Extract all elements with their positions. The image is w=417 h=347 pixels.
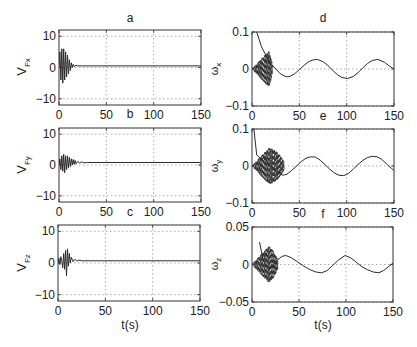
axes-e: 050100150−0.100.1: [225, 122, 404, 220]
x-tick-label: 0: [249, 305, 256, 319]
solid-series-line: [260, 242, 394, 273]
axes-c: 050100150−10010: [35, 224, 211, 318]
panel-e: e ωy 050100150−0.100.1: [208, 109, 404, 220]
solid-series-line: [58, 249, 200, 276]
x-tick-label: 100: [144, 205, 164, 219]
panel-title-a: a: [127, 11, 134, 25]
ylabel-e: ωy: [208, 160, 223, 173]
plot-area: [59, 154, 201, 173]
x-tick-label: 150: [383, 305, 403, 319]
xlabel-f: t(s): [314, 318, 331, 332]
svg-text:ωx: ωx: [208, 63, 223, 76]
y-tick-label: 0: [242, 159, 249, 173]
panel-d: d ωx 050100150−0.100.1: [208, 11, 404, 123]
axes-b: 050100150−10010: [36, 127, 212, 219]
y-tick-label: −0.05: [219, 295, 250, 309]
x-tick-label: 150: [190, 304, 210, 318]
axes-d: 050100150−0.100.1: [225, 25, 404, 123]
xlabel-c: t(s): [121, 318, 138, 332]
x-tick-label: 150: [384, 109, 404, 123]
y-tick-label: 0: [242, 258, 249, 272]
x-tick-label: 50: [100, 205, 114, 219]
y-tick-label: 0: [49, 61, 56, 75]
dashed-series-line: [252, 52, 273, 87]
plot-area: [252, 242, 393, 282]
ylabel-d: ωx: [208, 63, 223, 76]
y-tick-label: −0.1: [225, 99, 249, 113]
panel-b: b VFy 050100150−10010: [14, 107, 211, 219]
x-tick-label: 100: [144, 108, 164, 122]
x-tick-label: 150: [384, 206, 404, 220]
plot-area: [58, 249, 200, 276]
axes-f: 050100150−0.0500.05: [219, 220, 404, 319]
x-tick-label: 0: [56, 205, 63, 219]
axes-a: 050100150−10010: [36, 29, 212, 122]
x-tick-label: 100: [336, 305, 356, 319]
panel-title-f: f: [321, 207, 325, 221]
y-tick-label: 0: [48, 256, 55, 270]
x-tick-label: 0: [249, 109, 256, 123]
solid-series-line: [257, 32, 394, 79]
x-tick-label: 50: [293, 109, 307, 123]
svg-text:ωz: ωz: [208, 258, 223, 271]
plot-area: [252, 32, 394, 87]
y-tick-label: 0: [242, 62, 249, 76]
y-tick-label: 0: [49, 158, 56, 172]
y-tick-label: 10: [43, 127, 57, 141]
x-tick-label: 50: [292, 305, 306, 319]
panel-title-c: c: [127, 205, 133, 219]
plot-area: [59, 49, 201, 83]
ylabel-b: VFy: [14, 156, 32, 174]
ylabel-a: VFx: [14, 58, 32, 76]
x-tick-label: 150: [191, 205, 211, 219]
y-tick-label: −10: [36, 92, 57, 106]
figure: a VFx 050100150−10010 b VFy 050100150−10…: [0, 0, 417, 347]
y-tick-label: −10: [35, 288, 56, 302]
y-tick-label: 10: [42, 224, 56, 238]
x-tick-label: 100: [337, 109, 357, 123]
svg-text:VFx: VFx: [14, 58, 32, 76]
panel-a: a VFx 050100150−10010: [14, 11, 211, 122]
x-tick-label: 100: [337, 206, 357, 220]
panel-title-d: d: [320, 11, 327, 25]
x-tick-label: 0: [56, 108, 63, 122]
solid-series-line: [59, 154, 201, 173]
x-tick-label: 0: [55, 304, 62, 318]
solid-series-line: [59, 49, 201, 83]
x-tick-label: 50: [100, 108, 114, 122]
y-tick-label: 0.1: [232, 25, 249, 39]
x-tick-label: 150: [191, 108, 211, 122]
y-tick-label: 0.05: [226, 220, 250, 234]
x-tick-label: 50: [99, 304, 113, 318]
x-tick-label: 50: [293, 206, 307, 220]
x-tick-label: 100: [143, 304, 163, 318]
svg-text:VFy: VFy: [14, 156, 32, 174]
svg-text:VFz: VFz: [14, 254, 32, 272]
y-tick-label: 0.1: [232, 122, 249, 136]
y-tick-label: −10: [36, 189, 57, 203]
panel-c: c VFz 050100150−10010 t(s): [14, 205, 210, 332]
panel-title-e: e: [320, 109, 327, 123]
panel-title-b: b: [127, 107, 134, 121]
ylabel-c: VFz: [14, 254, 32, 272]
y-tick-label: −0.1: [225, 196, 249, 210]
plot-area: [252, 129, 394, 184]
svg-text:ωy: ωy: [208, 160, 223, 173]
panel-f: f ωz 050100150−0.0500.05 t(s): [208, 207, 403, 332]
ylabel-f: ωz: [208, 258, 223, 271]
x-tick-label: 0: [249, 206, 256, 220]
y-tick-label: 10: [43, 29, 57, 43]
